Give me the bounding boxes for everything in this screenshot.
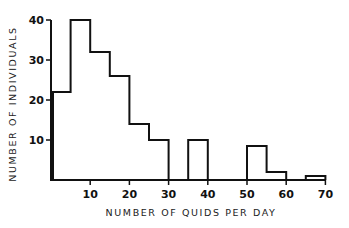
- y-axis-title: NUMBER OF INDIVIDUALS: [7, 26, 18, 181]
- y-axis-ticks: 10203040: [29, 14, 51, 147]
- histogram-outline: [51, 20, 325, 180]
- y-tick-label: 20: [29, 94, 45, 107]
- x-axis-title: NUMBER OF QUIDS PER DAY: [106, 207, 277, 218]
- y-tick-label: 10: [29, 134, 45, 147]
- x-tick-label: 30: [161, 188, 177, 201]
- x-axis-ticks: 10203040506070: [83, 180, 334, 201]
- x-tick-label: 10: [83, 188, 99, 201]
- x-tick-label: 50: [239, 188, 255, 201]
- histogram-bars: [51, 20, 325, 180]
- y-tick-label: 30: [29, 54, 45, 67]
- histogram-chart: 10203040506070 10203040 NUMBER OF QUIDS …: [0, 0, 349, 228]
- x-tick-label: 70: [318, 188, 334, 201]
- y-tick-label: 40: [29, 14, 45, 27]
- x-tick-label: 60: [279, 188, 295, 201]
- x-tick-label: 40: [200, 188, 216, 201]
- x-tick-label: 20: [122, 188, 138, 201]
